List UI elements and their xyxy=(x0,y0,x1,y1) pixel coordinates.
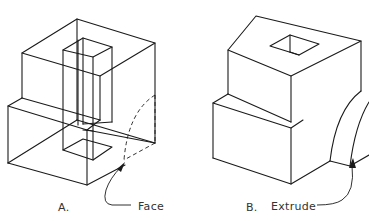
figure-a-wireframe xyxy=(8,19,155,185)
extrude-callout-label: Extrude xyxy=(271,200,316,213)
figure-a-label: A. xyxy=(58,201,69,214)
figure-b-solid xyxy=(213,16,369,184)
face-leader xyxy=(105,162,131,205)
diagram-canvas: A. Face B. Extrude xyxy=(0,0,369,221)
drawing-svg xyxy=(0,0,369,221)
face-callout-label: Face xyxy=(138,200,164,213)
dashed-arc-profile xyxy=(124,95,155,160)
figure-b-label: B. xyxy=(246,201,258,214)
